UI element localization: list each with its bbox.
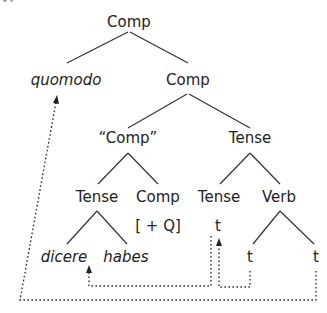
node-habes: habes xyxy=(103,248,148,266)
node-comp-lower: Comp xyxy=(136,188,180,206)
trace-verb-2: t xyxy=(313,248,319,266)
node-tense-lower-left: Tense xyxy=(75,188,118,206)
branch-tense-habes xyxy=(97,211,127,244)
trace-verb-1: t xyxy=(247,248,253,266)
tree-nodes: Comp quomodo Comp “Comp” Tense Tense Com… xyxy=(31,13,319,266)
syntax-tree-diagram: Comp quomodo Comp “Comp” Tense Tense Com… xyxy=(0,0,327,313)
clipped-top-text xyxy=(3,0,13,2)
node-tense: Tense xyxy=(228,129,271,147)
arrowhead-up-icon xyxy=(86,265,92,273)
arrowhead-up-icon xyxy=(216,238,222,246)
move-path-verb-to-tense xyxy=(219,245,250,287)
branch-tense-tense xyxy=(220,153,250,184)
branch-root-quomodo xyxy=(67,32,128,63)
branch-root-comp xyxy=(130,32,188,63)
trace-tense: t xyxy=(215,217,221,235)
node-quoted-comp: “Comp” xyxy=(99,129,158,147)
branch-verb-t1 xyxy=(253,211,280,244)
branch-comp-tense xyxy=(189,94,250,128)
node-comp: Comp xyxy=(166,71,210,89)
branch-comp-quotedcomp xyxy=(128,94,187,128)
branch-verb-t2 xyxy=(280,211,314,244)
node-verb: Verb xyxy=(262,188,296,206)
node-root-comp: Comp xyxy=(107,13,151,31)
branch-tense-verb xyxy=(250,153,280,184)
node-dicere: dicere xyxy=(41,248,88,266)
feature-plus-q: [ + Q] xyxy=(135,217,181,235)
node-tense-lower-right: Tense xyxy=(197,188,240,206)
arrowhead-up-icon xyxy=(53,95,59,104)
branch-quotedcomp-comp xyxy=(128,153,158,184)
branch-tense-dicere xyxy=(67,211,97,244)
node-quomodo: quomodo xyxy=(31,71,102,89)
branch-quotedcomp-tense xyxy=(98,153,128,184)
